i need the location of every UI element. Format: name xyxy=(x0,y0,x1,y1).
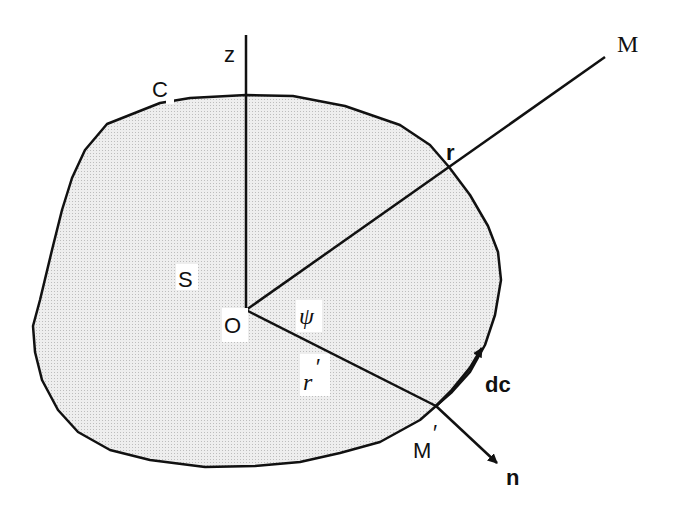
surface-s xyxy=(33,95,501,467)
label-m-prime: M xyxy=(413,438,431,463)
label-r-prime-mark: ′ xyxy=(316,354,320,379)
label-m-prime-mark: ′ xyxy=(433,420,437,445)
label-o: O xyxy=(224,313,241,338)
label-n: n xyxy=(506,465,519,490)
label-c: C xyxy=(152,77,168,102)
label-dc: dc xyxy=(485,372,511,397)
contour-diagram: z C M r S O ψ r ′ dc M ′ n xyxy=(0,0,674,512)
normal-n-arrow xyxy=(436,406,497,463)
label-psi: ψ xyxy=(299,303,315,329)
label-r: r xyxy=(446,140,455,165)
label-r-prime: r xyxy=(303,369,313,395)
label-m: M xyxy=(617,31,638,57)
label-z: z xyxy=(224,42,235,67)
label-s: S xyxy=(178,267,193,292)
